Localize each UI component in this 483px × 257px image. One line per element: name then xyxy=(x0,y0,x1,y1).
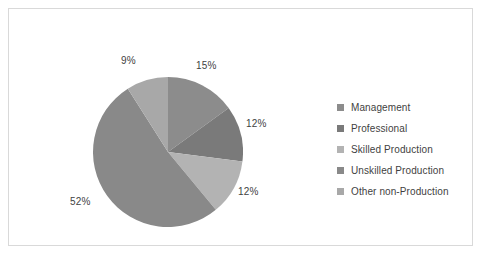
legend-item[interactable]: Skilled Production xyxy=(337,139,472,160)
legend-item-label: Unskilled Production xyxy=(351,165,444,176)
legend-item-label: Professional xyxy=(351,123,407,134)
slice-value-label-other-non-production: 9% xyxy=(121,55,136,66)
legend-item[interactable]: Unskilled Production xyxy=(337,160,472,181)
slice-value-label-management: 15% xyxy=(196,60,217,71)
legend-item-label: Management xyxy=(351,102,410,113)
chart-legend: ManagementProfessionalSkilled Production… xyxy=(337,97,472,202)
legend-swatch-icon xyxy=(337,167,344,174)
slice-value-label-unskilled-production: 52% xyxy=(70,196,91,207)
legend-item[interactable]: Professional xyxy=(337,118,472,139)
slice-value-label-skilled-production: 12% xyxy=(238,186,259,197)
legend-item[interactable]: Management xyxy=(337,97,472,118)
legend-swatch-icon xyxy=(337,146,344,153)
legend-item-label: Other non-Production xyxy=(351,186,449,197)
slice-value-label-professional: 12% xyxy=(246,118,267,129)
legend-item-label: Skilled Production xyxy=(351,144,433,155)
pie-chart-figure: 15% 12% 12% 52% 9% ManagementProfessiona… xyxy=(0,0,483,257)
legend-swatch-icon xyxy=(337,104,344,111)
legend-item[interactable]: Other non-Production xyxy=(337,181,472,202)
legend-swatch-icon xyxy=(337,188,344,195)
pie-graphic xyxy=(93,77,243,227)
pie-svg xyxy=(93,77,243,227)
legend-swatch-icon xyxy=(337,125,344,132)
